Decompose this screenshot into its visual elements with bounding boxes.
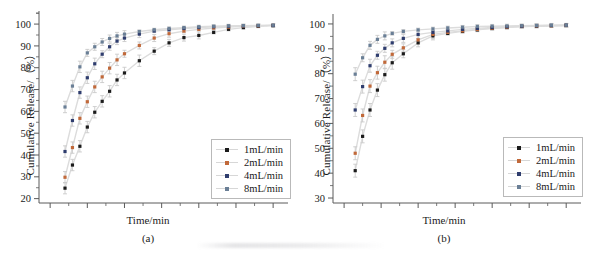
svg-text:25: 25: [231, 211, 242, 212]
svg-text:30: 30: [268, 211, 279, 212]
legend-item: 8mL/min: [508, 180, 575, 193]
svg-text:0: 0: [48, 211, 53, 212]
legend-item: 4mL/min: [216, 169, 283, 182]
svg-text:20: 20: [487, 211, 498, 212]
legend-marker-icon: [216, 183, 238, 194]
legend-label: 4mL/min: [244, 169, 283, 182]
legend-item: 4mL/min: [508, 167, 575, 180]
legend-item: 2mL/min: [216, 156, 283, 169]
legend-label: 8mL/min: [536, 180, 575, 193]
legend-marker-icon: [216, 144, 238, 155]
legend-marker-icon: [508, 181, 530, 192]
legend-label: 4mL/min: [536, 167, 575, 180]
svg-text:0: 0: [341, 211, 346, 212]
legend-label: 2mL/min: [536, 154, 575, 167]
scan-artifact: [196, 243, 386, 248]
legend-label: 2mL/min: [244, 156, 283, 169]
legend-marker-icon: [508, 168, 530, 179]
svg-text:10: 10: [413, 211, 424, 212]
svg-text:25: 25: [524, 211, 535, 212]
svg-text:100: 100: [309, 19, 325, 30]
y-axis-label-b: Cumulative Release/（%）: [317, 37, 333, 187]
figure-container: 2030405060708090100051015202530 Cumulati…: [0, 0, 593, 257]
legend-a: 1mL/min 2mL/min 4mL/min 8mL/min: [211, 139, 291, 199]
legend-item: 1mL/min: [216, 143, 283, 156]
svg-text:15: 15: [450, 211, 461, 212]
svg-text:10: 10: [119, 211, 130, 212]
legend-marker-icon: [216, 157, 238, 168]
svg-text:5: 5: [378, 211, 383, 212]
legend-label: 1mL/min: [244, 143, 283, 156]
chart-panel-b: 30405060708090100051015202530 Cumulative…: [296, 0, 592, 257]
legend-marker-icon: [508, 142, 530, 153]
legend-item: 8mL/min: [216, 182, 283, 195]
legend-label: 1mL/min: [536, 141, 575, 154]
svg-text:30: 30: [315, 193, 326, 204]
svg-text:5: 5: [85, 211, 90, 212]
legend-item: 1mL/min: [508, 141, 575, 154]
legend-label: 8mL/min: [244, 182, 283, 195]
svg-text:20: 20: [194, 211, 205, 212]
legend-marker-icon: [216, 170, 238, 181]
legend-b: 1mL/min 2mL/min 4mL/min 8mL/min: [503, 137, 583, 197]
x-axis-label-b: Time/min: [296, 214, 592, 226]
svg-text:20: 20: [21, 193, 32, 204]
legend-marker-icon: [508, 155, 530, 166]
legend-item: 2mL/min: [508, 154, 575, 167]
svg-text:100: 100: [15, 19, 31, 30]
svg-text:15: 15: [156, 211, 167, 212]
chart-panel-a: 2030405060708090100051015202530 Cumulati…: [0, 0, 296, 257]
y-axis-label-a: Cumulative Release/（%）: [21, 37, 37, 187]
x-axis-label-a: Time/min: [0, 214, 296, 226]
svg-text:30: 30: [561, 211, 572, 212]
